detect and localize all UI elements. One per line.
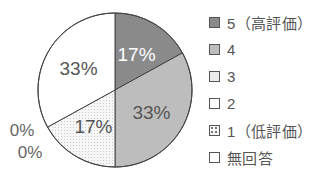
legend-swatch-icon bbox=[209, 152, 220, 163]
legend-label: 1（低評価） bbox=[227, 120, 312, 141]
legend: 5（高評価） 4 3 2 1（低評価） 無回答 bbox=[209, 9, 312, 171]
legend-item-2: 2 bbox=[209, 90, 312, 117]
legend-swatch-icon bbox=[209, 71, 220, 82]
legend-item-1: 1（低評価） bbox=[209, 117, 312, 144]
legend-label: 無回答 bbox=[227, 147, 273, 168]
legend-swatch-dotted-icon bbox=[209, 125, 220, 136]
legend-label: 3 bbox=[227, 68, 236, 85]
legend-label: 2 bbox=[227, 95, 236, 112]
pie-value-label: 17% bbox=[74, 116, 112, 137]
pie-zero-value-label: 0% bbox=[18, 143, 43, 162]
legend-swatch-icon bbox=[209, 44, 220, 55]
pie-value-label: 33% bbox=[132, 102, 170, 123]
legend-item-no-answer: 無回答 bbox=[209, 144, 312, 171]
pie-zero-value-label: 0% bbox=[10, 121, 35, 140]
pie-slices bbox=[38, 13, 192, 167]
legend-label: 4 bbox=[227, 41, 236, 58]
legend-swatch-icon bbox=[209, 17, 220, 28]
legend-item-5: 5（高評価） bbox=[209, 9, 312, 36]
pie-value-label: 17% bbox=[118, 44, 156, 65]
legend-swatch-icon bbox=[209, 98, 220, 109]
legend-label: 5（高評価） bbox=[227, 12, 312, 33]
legend-item-3: 3 bbox=[209, 63, 312, 90]
legend-item-4: 4 bbox=[209, 36, 312, 63]
pie-value-label: 33% bbox=[60, 58, 98, 79]
pie-chart: 17%33%17%33%0%0% bbox=[0, 0, 200, 191]
